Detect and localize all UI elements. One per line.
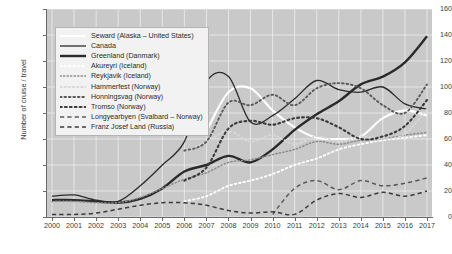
legend-swatch (60, 41, 86, 51)
legend-swatch (60, 31, 86, 41)
x-tick-mark (228, 218, 229, 221)
legend-item: Seward (Alaska – United States) (60, 31, 203, 41)
legend-label: Seward (Alaska – United States) (91, 31, 194, 41)
legend-item: Tromso (Norway) (60, 102, 203, 112)
x-tick-mark (140, 218, 141, 221)
x-tick-mark (427, 218, 428, 221)
x-tick-mark (96, 218, 97, 221)
chart-screenshot: Number of cruise / travel 02040608010012… (0, 0, 452, 254)
y-axis-title: Number of cruise / travel (19, 25, 28, 175)
legend-item: Reykjavik (Iceland) (60, 71, 203, 81)
legend-swatch (60, 82, 86, 92)
legend-item: Greenland (Danmark) (60, 51, 203, 61)
x-tick-mark (295, 218, 296, 221)
x-tick-mark (118, 218, 119, 221)
x-tick-mark (339, 218, 340, 221)
legend-swatch (60, 122, 86, 132)
x-tick-mark (273, 218, 274, 221)
legend-label: Canada (91, 41, 116, 51)
legend-swatch (60, 92, 86, 102)
legend-label: Reykjavik (Iceland) (91, 71, 151, 81)
x-tick-mark (317, 218, 318, 221)
legend-swatch (60, 102, 86, 112)
legend-label: Akureyri (Iceland) (91, 61, 147, 71)
y-tick-mark (43, 217, 47, 218)
x-tick-mark (74, 218, 75, 221)
legend-item: Longyearbyen (Svalbard – Norway) (60, 112, 203, 122)
legend-label: Hammerfest (Norway) (91, 82, 160, 92)
legend-label: Franz Josef Land (Russia) (91, 122, 174, 132)
x-tick-mark (52, 218, 53, 221)
legend-swatch (60, 71, 86, 81)
legend-swatch (60, 51, 86, 61)
legend-item: Franz Josef Land (Russia) (60, 122, 203, 132)
x-tick-mark (361, 218, 362, 221)
legend-label: Tromso (Norway) (91, 102, 146, 112)
x-tick-mark (405, 218, 406, 221)
legend-item: Canada (60, 41, 203, 51)
legend-label: Honningsvag (Norway) (91, 92, 163, 102)
legend-label: Greenland (Danmark) (91, 51, 160, 61)
legend-item: Hammerfest (Norway) (60, 81, 203, 91)
x-tick-mark (184, 218, 185, 221)
legend-label: Longyearbyen (Svalbard – Norway) (91, 112, 203, 122)
x-axis-line (46, 217, 433, 218)
x-tick-mark (251, 218, 252, 221)
x-tick-mark (162, 218, 163, 221)
legend-item: Honningsvag (Norway) (60, 92, 203, 102)
legend-swatch (60, 61, 86, 71)
legend-swatch (60, 112, 86, 122)
x-tick-mark (206, 218, 207, 221)
x-tick-mark (383, 218, 384, 221)
x-tick-label: 2017 (411, 221, 443, 230)
chart-legend: Seward (Alaska – United States)CanadaGre… (55, 27, 209, 136)
legend-item: Akureyri (Iceland) (60, 61, 203, 71)
